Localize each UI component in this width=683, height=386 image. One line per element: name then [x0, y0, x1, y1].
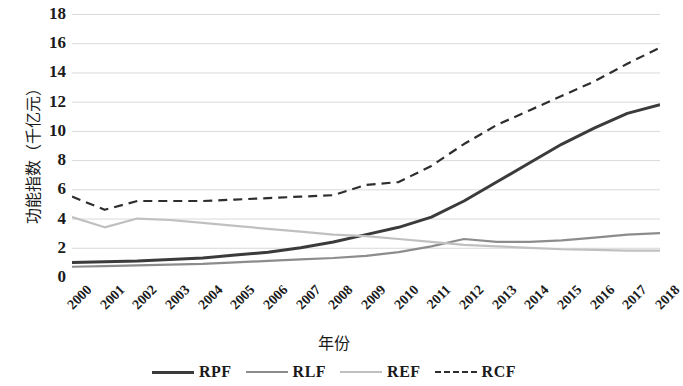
- chart-legend: RPFRLFREFRCF: [0, 360, 668, 384]
- y-tick-label: 6: [32, 180, 66, 197]
- legend-label: RCF: [482, 363, 516, 381]
- y-tick-label: 12: [32, 93, 66, 110]
- y-tick-label: 2: [32, 239, 66, 256]
- x-tick-label: 2000: [64, 282, 95, 313]
- x-tick-label: 2004: [195, 282, 226, 313]
- x-tick-label: 2018: [652, 282, 683, 313]
- x-tick-label: 2008: [326, 282, 357, 313]
- x-tick-label: 2002: [130, 282, 161, 313]
- x-tick-label: 2015: [554, 282, 585, 313]
- legend-item-rlf[interactable]: RLF: [246, 363, 327, 381]
- legend-swatch-rpf-icon: [152, 371, 194, 374]
- y-tick-label: 18: [32, 5, 66, 22]
- y-axis-tick-labels: 024681012141618: [28, 0, 66, 290]
- plot-area: [72, 14, 660, 277]
- x-tick-label: 2017: [620, 282, 651, 313]
- gridlines: [72, 15, 660, 278]
- plot-canvas: [72, 14, 660, 277]
- x-tick-label: 2009: [358, 282, 389, 313]
- y-tick-label: 16: [32, 34, 66, 51]
- legend-swatch-ref-icon: [340, 371, 382, 373]
- series-lines: [72, 48, 660, 267]
- x-tick-label: 2012: [456, 282, 487, 313]
- legend-item-rpf[interactable]: RPF: [152, 363, 232, 381]
- x-tick-label: 2003: [162, 282, 193, 313]
- legend-item-ref[interactable]: REF: [340, 363, 421, 381]
- y-tick-label: 4: [32, 210, 66, 227]
- legend-label: RPF: [199, 363, 232, 381]
- x-tick-label: 2011: [424, 282, 455, 313]
- x-tick-label: 2005: [228, 282, 259, 313]
- x-tick-label: 2001: [97, 282, 128, 313]
- series-line-rcf: [72, 48, 660, 210]
- x-tick-label: 2013: [489, 282, 520, 313]
- y-tick-label: 14: [32, 63, 66, 80]
- legend-label: REF: [387, 363, 421, 381]
- legend-item-rcf[interactable]: RCF: [435, 363, 516, 381]
- x-tick-label: 2010: [391, 282, 422, 313]
- y-tick-label: 8: [32, 151, 66, 168]
- y-tick-label: 10: [32, 122, 66, 139]
- x-tick-label: 2007: [293, 282, 324, 313]
- x-axis-tick-labels: 2000200120022003200420052006200720082009…: [0, 280, 668, 326]
- x-tick-label: 2006: [260, 282, 291, 313]
- x-tick-label: 2014: [522, 282, 553, 313]
- legend-label: RLF: [293, 363, 327, 381]
- legend-swatch-rcf-icon: [435, 371, 477, 373]
- x-tick-label: 2016: [587, 282, 618, 313]
- legend-swatch-rlf-icon: [246, 371, 288, 373]
- x-axis-title: 年份: [0, 330, 668, 354]
